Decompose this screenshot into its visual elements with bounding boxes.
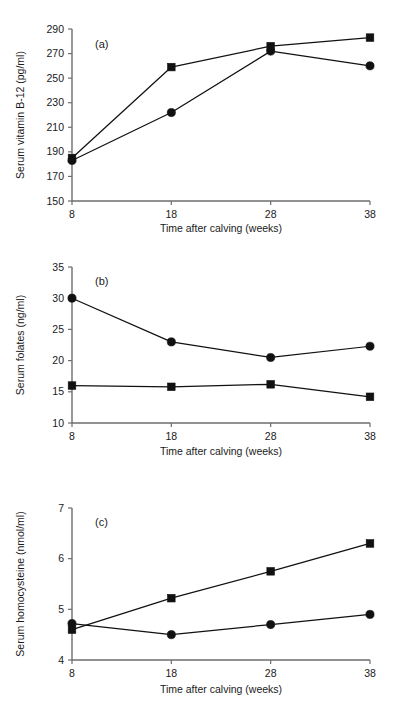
- chart-panel-a: 1501701902102302502702908182838Time afte…: [0, 0, 393, 240]
- series-line-circle: [72, 298, 370, 357]
- data-point-circle: [267, 620, 275, 628]
- y-tick-label: 210: [46, 121, 64, 133]
- data-point-square: [168, 383, 176, 391]
- x-tick-label: 28: [265, 667, 277, 679]
- data-point-square: [366, 393, 374, 401]
- x-tick-label: 8: [69, 667, 75, 679]
- y-tick-label: 190: [46, 145, 64, 157]
- data-point-square: [68, 382, 76, 390]
- y-tick-label: 230: [46, 96, 64, 108]
- series-line-circle: [72, 614, 370, 634]
- x-axis-title: Time after calving (weeks): [160, 222, 282, 234]
- multi-panel-figure: 1501701902102302502702908182838Time afte…: [0, 0, 393, 717]
- y-tick-label: 5: [58, 603, 64, 615]
- data-point-square: [68, 154, 76, 162]
- y-axis-title: Serum vitamin B-12 (pg/ml): [14, 51, 26, 179]
- y-tick-label: 7: [58, 502, 64, 514]
- y-tick-label: 6: [58, 552, 64, 564]
- axis-lines: [72, 29, 370, 201]
- data-point-square: [267, 42, 275, 50]
- data-point-square: [366, 540, 374, 548]
- data-point-square: [267, 568, 275, 576]
- data-point-circle: [68, 294, 76, 302]
- series-line-square: [72, 543, 370, 629]
- y-tick-label: 35: [52, 261, 64, 273]
- x-tick-label: 38: [364, 430, 376, 442]
- series-line-square: [72, 384, 370, 396]
- data-point-square: [168, 594, 176, 602]
- data-point-circle: [167, 108, 175, 116]
- panel-tag: (b): [95, 275, 108, 287]
- chart-svg-b: 1015202530358182838Time after calving (w…: [0, 243, 393, 478]
- x-tick-label: 18: [165, 208, 177, 220]
- data-point-square: [267, 381, 275, 389]
- y-tick-label: 170: [46, 170, 64, 182]
- x-tick-label: 18: [165, 430, 177, 442]
- y-tick-label: 250: [46, 72, 64, 84]
- series-line-circle: [72, 51, 370, 160]
- data-point-square: [366, 34, 374, 42]
- data-point-square: [168, 63, 176, 71]
- x-tick-label: 8: [69, 208, 75, 220]
- x-tick-label: 28: [265, 430, 277, 442]
- data-point-circle: [167, 338, 175, 346]
- y-axis-title: Serum folates (ng/ml): [14, 295, 26, 395]
- data-point-square: [68, 626, 76, 634]
- y-tick-label: 4: [58, 654, 64, 666]
- x-axis-title: Time after calving (weeks): [160, 683, 282, 695]
- y-tick-label: 25: [52, 323, 64, 335]
- panel-tag: (a): [95, 38, 108, 50]
- chart-svg-a: 1501701902102302502702908182838Time afte…: [0, 0, 393, 240]
- axis-lines: [72, 267, 370, 423]
- data-point-circle: [366, 342, 374, 350]
- x-tick-label: 8: [69, 430, 75, 442]
- data-point-circle: [167, 631, 175, 639]
- x-tick-label: 38: [364, 667, 376, 679]
- data-point-circle: [366, 610, 374, 618]
- y-tick-label: 290: [46, 23, 64, 35]
- x-tick-label: 38: [364, 208, 376, 220]
- axis-lines: [72, 508, 370, 660]
- data-point-circle: [267, 353, 275, 361]
- chart-svg-c: 45678182838Time after calving (weeks)Ser…: [0, 478, 393, 717]
- y-tick-label: 30: [52, 292, 64, 304]
- x-tick-label: 28: [265, 208, 277, 220]
- chart-panel-b: 1015202530358182838Time after calving (w…: [0, 243, 393, 478]
- x-axis-title: Time after calving (weeks): [160, 445, 282, 457]
- y-axis-title: Serum homocysteine (nmol/ml): [14, 511, 26, 656]
- panel-tag: (c): [95, 516, 108, 528]
- series-line-square: [72, 38, 370, 158]
- y-tick-label: 270: [46, 47, 64, 59]
- y-tick-label: 15: [52, 385, 64, 397]
- data-point-circle: [366, 62, 374, 70]
- y-tick-label: 10: [52, 417, 64, 429]
- x-tick-label: 18: [165, 667, 177, 679]
- y-tick-label: 150: [46, 195, 64, 207]
- chart-panel-c: 45678182838Time after calving (weeks)Ser…: [0, 478, 393, 717]
- y-tick-label: 20: [52, 354, 64, 366]
